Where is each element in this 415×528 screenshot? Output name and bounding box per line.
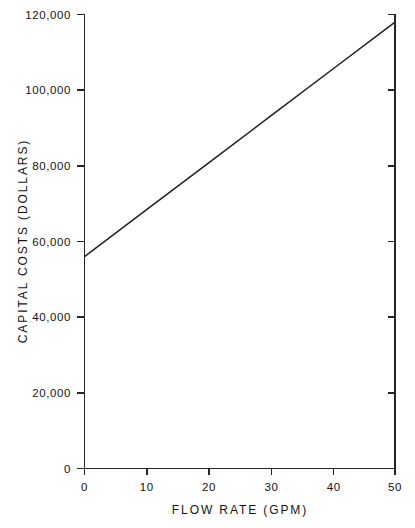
chart-plot-area: 0 20,000 40,000 60,000 80,000 100,000 12… xyxy=(0,0,415,528)
x-tick-label-0: 0 xyxy=(81,481,88,493)
y-axis-ticks xyxy=(77,15,396,469)
y-tick-label-20000: 20,000 xyxy=(32,387,71,399)
axis-spines xyxy=(84,14,396,469)
y-tick-labels: 0 20,000 40,000 60,000 80,000 100,000 12… xyxy=(25,9,71,475)
x-tick-label-40: 40 xyxy=(327,481,341,493)
y-tick-label-120000: 120,000 xyxy=(25,9,71,21)
x-tick-label-50: 50 xyxy=(388,481,402,493)
capital-costs-line xyxy=(85,22,396,257)
y-tick-label-40000: 40,000 xyxy=(32,311,71,323)
capital-costs-chart: 0 20,000 40,000 60,000 80,000 100,000 12… xyxy=(0,0,415,528)
x-axis-title: FLOW RATE (GPM) xyxy=(172,503,308,517)
x-tick-label-30: 30 xyxy=(264,481,278,493)
y-axis-title: CAPITAL COSTS (DOLLARS) xyxy=(16,139,30,343)
y-tick-label-0: 0 xyxy=(64,463,71,475)
x-tick-labels: 0 10 20 30 40 50 xyxy=(81,481,402,493)
x-tick-label-10: 10 xyxy=(140,481,154,493)
y-tick-label-100000: 100,000 xyxy=(25,84,71,96)
x-tick-label-20: 20 xyxy=(202,481,216,493)
y-tick-label-60000: 60,000 xyxy=(32,236,71,248)
y-tick-label-80000: 80,000 xyxy=(32,160,71,172)
